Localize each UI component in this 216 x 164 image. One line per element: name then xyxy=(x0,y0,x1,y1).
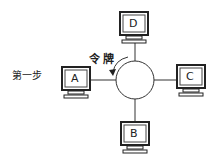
token-label: 令牌 xyxy=(89,50,117,66)
step-label: 第一步 xyxy=(12,67,42,82)
token-ring-diagram xyxy=(0,0,216,164)
node-label-a: A xyxy=(71,72,79,85)
token-arrowhead-icon xyxy=(109,69,116,76)
node-label-c: C xyxy=(186,70,194,83)
node-label-d: D xyxy=(129,17,137,30)
ring-hub xyxy=(116,61,154,99)
node-label-b: B xyxy=(130,127,138,140)
